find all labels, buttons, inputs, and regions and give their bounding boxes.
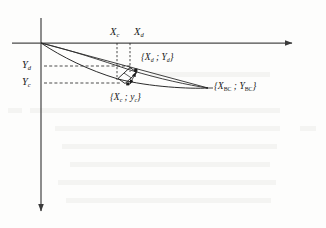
diagram-canvas: Xc Xd Yd Yc {Xd ; Yd} {Xc ; yc} {XBC ; Y… — [0, 0, 326, 228]
point-c-x-sub: c — [120, 97, 123, 103]
point-d-y-base: Y — [161, 52, 166, 62]
x-tick-xd-sub: d — [140, 31, 143, 38]
point-d-y-sub: d — [167, 57, 170, 63]
point-d-x-base: X — [145, 52, 151, 62]
y-tick-yc-sub: c — [28, 81, 31, 88]
diagram-vector-layer — [0, 0, 326, 228]
point-bc-close-brace: } — [253, 81, 257, 91]
quadrilateral-divider — [124, 73, 132, 78]
y-tick-yd-sub: d — [28, 64, 31, 71]
x-tick-label-xd: Xd — [134, 27, 144, 38]
point-label-c: {Xc ; yc} — [110, 93, 141, 103]
projection-lines-group — [44, 43, 131, 83]
point-bc-y-sub: BC — [245, 86, 253, 92]
point-label-bc: {XBC ; YBC} — [214, 82, 256, 92]
point-c-y-sub: c — [134, 97, 137, 103]
point-bc-y-base: Y — [239, 81, 244, 91]
x-tick-xc-sub: c — [116, 31, 119, 38]
corner-marker-square-lower — [126, 82, 129, 85]
y-tick-label-yc: Yc — [22, 77, 31, 88]
point-label-d: {Xd ; Yd} — [141, 53, 174, 63]
point-bc-x-base: X — [218, 81, 224, 91]
point-d-x-sub: d — [151, 57, 154, 63]
point-bc-x-sub: BC — [224, 86, 232, 92]
offset-arrow-up — [133, 72, 136, 78]
y-tick-label-yd: Yd — [22, 60, 31, 71]
point-c-close-brace: } — [137, 92, 141, 102]
corner-marker-square — [134, 69, 137, 72]
point-c-x-base: X — [114, 92, 120, 102]
y-tick-yd-base: Y — [22, 59, 28, 70]
point-d-close-brace: } — [170, 52, 174, 62]
point-c-separator: ; — [122, 92, 130, 102]
x-tick-label-xc: Xc — [110, 27, 119, 38]
y-tick-yc-base: Y — [22, 76, 28, 87]
